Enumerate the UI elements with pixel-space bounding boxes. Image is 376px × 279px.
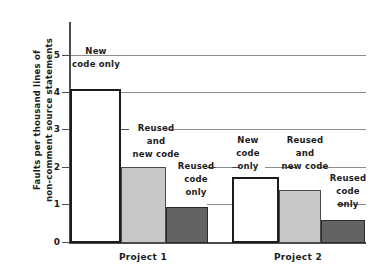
callout-project1-reused-and-new-code: Reused and new code (130, 122, 182, 161)
callout-line: code (172, 173, 220, 186)
callout-line: only (325, 198, 371, 211)
bar-project1-new-code-only (70, 89, 121, 243)
callout-line: New (228, 134, 268, 147)
bar-project1-reused-code-only (166, 207, 208, 243)
tick-mark-0 (62, 242, 69, 243)
tick-mark-1 (62, 204, 69, 205)
callout-line: code only (68, 58, 124, 71)
category-label-project-1: Project 1 (108, 252, 178, 262)
tick-mark-2 (62, 167, 69, 168)
tick-mark-3 (62, 129, 69, 130)
y-axis-label: Faults per thousand lines of non-comment… (31, 15, 55, 225)
callout-line: code (325, 185, 371, 198)
bar-project2-reused-code-only (321, 220, 365, 243)
y-axis-label-line1: Faults per thousand lines of (31, 15, 43, 225)
callout-project1-reused-code-only: Reused code only (172, 160, 220, 199)
bar-project2-reused-and-new-code (279, 190, 321, 243)
bar-project2-new-code-only (232, 177, 279, 243)
callout-line: Reused (325, 172, 371, 185)
leader-p1-reused-and-new-code (121, 129, 129, 130)
callout-line: only (172, 186, 220, 199)
callout-line: and (279, 147, 331, 160)
callout-line: only (228, 160, 268, 173)
category-label-project-2: Project 2 (263, 252, 333, 262)
tick-mark-4 (62, 92, 69, 93)
callout-line: code (228, 147, 268, 160)
callout-line: Reused (130, 122, 182, 135)
callout-project2-reused-code-only: Reused code only (325, 172, 371, 211)
callout-project2-reused-and-new-code: Reused and new code (279, 134, 331, 173)
callout-line: New (68, 45, 124, 58)
gridline-1-seg-a (207, 204, 235, 205)
callout-line: and (130, 135, 182, 148)
gridline-4 (121, 92, 366, 93)
callout-line: Reused (172, 160, 220, 173)
callout-line: new code (279, 160, 331, 173)
callout-project2-new-code-only: New code only (228, 134, 268, 173)
gridline-3-seg-a (166, 129, 366, 130)
y-axis-label-line2: non-comment source statements (43, 15, 55, 225)
callout-project1-new-code-only: New code only (68, 45, 124, 71)
y-tick-label-0: 0 (46, 237, 60, 247)
bar-chart: 5 4 3 2 1 0 Faults per thousand lines of… (0, 0, 376, 279)
callout-line: Reused (279, 134, 331, 147)
bar-project1-reused-and-new-code (121, 167, 166, 243)
